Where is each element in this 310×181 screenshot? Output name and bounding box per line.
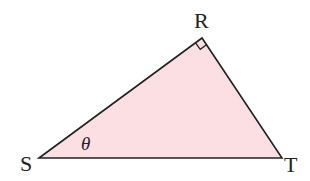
vertex-label-r: R: [194, 8, 209, 33]
triangle-srt: [39, 38, 282, 158]
vertex-label-t: T: [284, 152, 298, 177]
angle-label-theta: θ: [81, 133, 90, 154]
triangle-diagram: R S T θ: [0, 0, 310, 181]
triangle-svg: R S T θ: [0, 0, 310, 181]
vertex-label-s: S: [20, 151, 32, 176]
